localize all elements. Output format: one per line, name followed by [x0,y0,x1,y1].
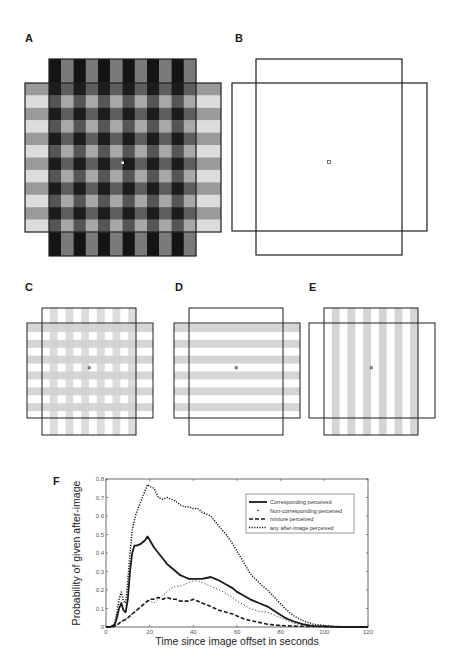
y-axis-title: Probability of given after-image [70,480,82,625]
x-tick-label: 0 [104,629,108,635]
x-tick-label: 20 [146,629,153,635]
y-tick-label: 0.8 [96,476,105,482]
legend-item-label: Non-corresponding perceived [270,508,342,514]
x-tick-label: 120 [363,629,374,635]
y-tick-label: 0.3 [96,569,105,575]
y-tick-label: 0.2 [96,587,105,593]
x-axis-title: Time since image offset in seconds [155,635,318,647]
y-tick-label: 0.6 [96,513,105,519]
y-tick-label: 0.7 [96,495,105,501]
legend-item-label: any after-image perceived [270,525,334,531]
series-line-2 [106,597,368,627]
series-line-1 [106,581,368,627]
legend-item-label: mixture perceived [270,516,313,522]
panel-f-chart: 02040608010012000.10.20.30.40.50.60.70.8… [0,0,454,664]
chart-legend: Corresponding perceivedNon-corresponding… [246,494,354,533]
y-tick-label: 0.1 [96,606,105,612]
y-tick-label: 0.4 [96,550,105,556]
x-tick-label: 100 [319,629,330,635]
legend-item-label: Corresponding perceived [270,499,331,505]
y-tick-label: 0.5 [96,532,105,538]
